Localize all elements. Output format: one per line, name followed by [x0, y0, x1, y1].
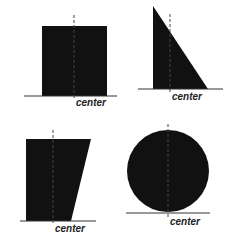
center-label: center	[55, 223, 86, 234]
center-diagram: center center center center	[0, 0, 236, 247]
center-label: center	[76, 97, 107, 108]
center-label: center	[172, 91, 203, 102]
center-label: center	[170, 216, 201, 227]
